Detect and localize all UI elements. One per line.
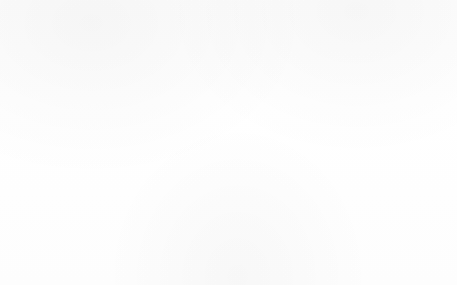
- x-tick-mark: [430, 220, 431, 225]
- bar: [97, 103, 121, 219]
- bar: [362, 86, 386, 219]
- x-tick-mark: [278, 220, 279, 225]
- y-tick-label: 0: [16, 215, 40, 226]
- bar: [211, 53, 235, 220]
- x-tick-mark: [203, 220, 204, 225]
- bar: [286, 106, 310, 219]
- bar: [135, 127, 159, 219]
- y-tick-label: 25: [16, 103, 40, 114]
- bar-value-label: 25.1: [277, 94, 317, 105]
- bar-value-label: 20.5: [126, 115, 166, 126]
- x-tick-mark: [392, 220, 393, 225]
- gridline: [52, 64, 429, 65]
- x-tick-mark: [354, 220, 355, 225]
- bar: [248, 35, 272, 219]
- bar-value-label: 29.6: [353, 74, 393, 85]
- y-tick-label: 5: [16, 193, 40, 204]
- bar: [173, 79, 197, 220]
- bar-value-label: 37.3: [315, 40, 355, 51]
- bar-value-label: 25.8: [88, 91, 128, 102]
- bar-value-label: 31.3: [164, 67, 204, 78]
- y-tick-label: 45: [16, 13, 40, 24]
- x-category-label: Schizoid: [126, 228, 164, 256]
- x-category-label: Paranoid: [88, 228, 128, 257]
- y-tick-label: 20: [16, 125, 40, 136]
- bar: [59, 114, 83, 219]
- y-tick-label: 10: [16, 170, 40, 181]
- x-tick-mark: [316, 220, 317, 225]
- bar: [324, 52, 348, 219]
- bar-chart: Percentage 051015202530354045 23.425.820…: [0, 0, 457, 285]
- y-tick-label: 15: [16, 148, 40, 159]
- bar-value-label: 27.3: [391, 85, 431, 96]
- x-tick-mark: [127, 220, 128, 225]
- x-tick-mark: [165, 220, 166, 225]
- x-tick-mark: [241, 220, 242, 225]
- y-tick-label: 40: [16, 35, 40, 46]
- x-tick-mark: [89, 220, 90, 225]
- bar-value-label: 40.9: [239, 23, 279, 34]
- bar-value-label: 23.4: [50, 102, 90, 113]
- y-tick-label: 35: [16, 58, 40, 69]
- bar-value-label: 37.1: [202, 41, 242, 52]
- bar: [400, 97, 424, 220]
- y-tick-label: 30: [16, 80, 40, 91]
